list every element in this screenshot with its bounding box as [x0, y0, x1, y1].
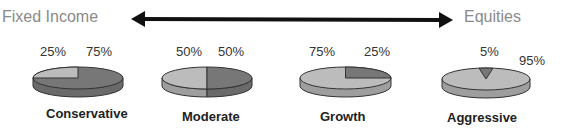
conservative-label: Conservative — [46, 106, 128, 121]
growth-fixed-income-pct: 25% — [364, 44, 390, 59]
aggressive-equities-pct: 95% — [519, 53, 545, 68]
conservative-equities-pct: 25% — [40, 44, 66, 59]
moderate-label: Moderate — [182, 109, 240, 124]
growth-equities-pct: 75% — [309, 44, 335, 59]
pie-growth — [300, 67, 391, 97]
moderate-fixed-income-pct: 50% — [218, 44, 244, 59]
pie-conservative — [33, 67, 123, 97]
pie-aggressive — [442, 68, 530, 98]
growth-label: Growth — [320, 109, 366, 124]
conservative-fixed-income-pct: 75% — [86, 44, 112, 59]
pie-moderate — [162, 67, 252, 97]
double-arrow-icon — [131, 11, 453, 28]
aggressive-fixed-income-pct: 5% — [480, 44, 499, 59]
aggressive-label: Aggressive — [447, 110, 517, 125]
moderate-equities-pct: 50% — [176, 44, 202, 59]
